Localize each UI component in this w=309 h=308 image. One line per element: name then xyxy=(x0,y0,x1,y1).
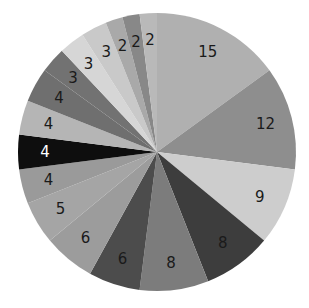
slice-label: 4 xyxy=(40,143,50,161)
slice-label: 9 xyxy=(255,188,265,206)
slice-label: 12 xyxy=(256,115,275,133)
pie-chart: 15129886654444333222 xyxy=(0,0,309,308)
slice-label: 6 xyxy=(118,250,128,268)
slice-label: 4 xyxy=(44,115,54,133)
slice-label: 4 xyxy=(44,171,54,189)
pie-slices xyxy=(18,13,296,291)
slice-label: 3 xyxy=(84,55,94,73)
slice-label: 15 xyxy=(198,43,217,61)
slice-label: 5 xyxy=(56,200,66,218)
slice-label: 3 xyxy=(68,69,78,87)
slice-label: 2 xyxy=(118,37,128,55)
slice-label: 4 xyxy=(54,89,64,107)
slice-label: 3 xyxy=(101,43,111,61)
slice-label: 8 xyxy=(218,234,228,252)
slice-label: 2 xyxy=(145,31,155,49)
slice-label: 2 xyxy=(131,33,141,51)
slice-label: 8 xyxy=(166,254,176,272)
slice-label: 6 xyxy=(81,229,91,247)
